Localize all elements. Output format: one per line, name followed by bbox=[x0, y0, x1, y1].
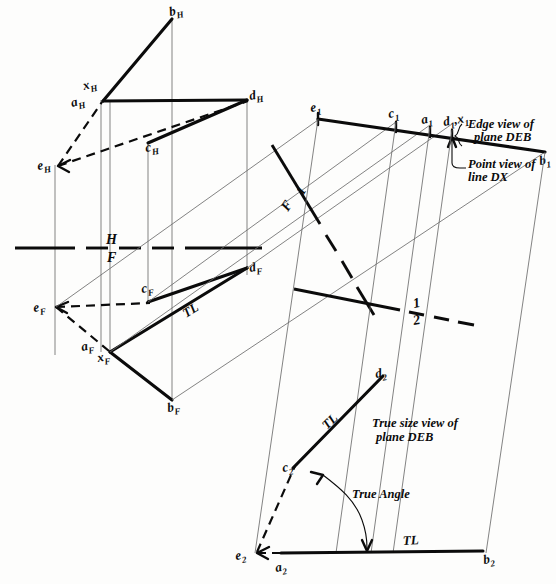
note-point-view-line2: line DX bbox=[468, 170, 509, 184]
descriptive-geometry-drawing: H F bH xH aH bbox=[0, 0, 556, 584]
drawing-sheet: H F bH xH aH bbox=[0, 0, 556, 584]
line-aF-bF bbox=[110, 352, 172, 400]
note-true-angle: True Angle bbox=[352, 487, 410, 501]
note-true-size-line1: True size view of bbox=[372, 416, 460, 430]
label-TL-front: TL bbox=[180, 299, 201, 320]
label-d1-x1: d1,x1 bbox=[442, 110, 470, 132]
note-point-view-line1: Point view of bbox=[468, 157, 537, 171]
fold-label-f: F bbox=[106, 250, 117, 265]
label-aF: aF bbox=[80, 337, 95, 357]
label-e2: e2 bbox=[234, 546, 248, 566]
fold-label-h: H bbox=[105, 232, 118, 247]
onetwo-seg-4 bbox=[458, 322, 474, 325]
label-e1: e1 bbox=[309, 98, 322, 118]
label-c2: c2 bbox=[281, 458, 295, 478]
projector-aF-a1 bbox=[110, 125, 430, 352]
label-a2: a2 bbox=[274, 558, 288, 578]
fold-label-f-upper: F bbox=[277, 197, 296, 214]
onetwo-seg-1 bbox=[294, 289, 400, 310]
projector-dF-d1 bbox=[247, 124, 452, 268]
note-true-size-line2: plane DEB bbox=[375, 430, 433, 444]
f1-seg-3 bbox=[342, 261, 352, 278]
line-a2-b2-TL bbox=[281, 551, 483, 553]
projector-eF-e1 bbox=[56, 120, 318, 307]
label-b2: b2 bbox=[482, 550, 496, 570]
f1-seg-2 bbox=[326, 235, 336, 251]
projector-e1-e2 bbox=[255, 119, 318, 553]
line-aH-bH bbox=[103, 19, 172, 101]
label-dH: dH bbox=[248, 86, 265, 106]
hidden-eF-cF bbox=[56, 303, 150, 307]
hidden-e2-c2 bbox=[257, 466, 295, 552]
label-c1: c1 bbox=[387, 104, 400, 124]
true-size-note: True size view of plane DEB bbox=[372, 416, 460, 444]
label-aH: aH bbox=[69, 92, 87, 113]
projector-b1-b2 bbox=[486, 152, 545, 553]
note-edge-view-line2: plane DEB bbox=[473, 130, 531, 144]
fold-label-1-upper: 1 bbox=[412, 295, 422, 311]
label-d2: d2 bbox=[374, 364, 388, 384]
projector-cF-c1 bbox=[148, 122, 396, 302]
fold-line-f-1 bbox=[272, 145, 374, 315]
true-angle-arrowhead-upper bbox=[311, 472, 323, 484]
label-xH: xH bbox=[80, 75, 99, 96]
fold-line-1-2 bbox=[294, 289, 474, 325]
label-eH: eH bbox=[36, 156, 53, 176]
label-bH: bH bbox=[168, 1, 186, 22]
edge-view-bracket bbox=[455, 124, 462, 146]
label-dF: dF bbox=[248, 258, 263, 278]
onetwo-seg-3 bbox=[434, 317, 449, 320]
hidden-eH-aH bbox=[58, 102, 102, 166]
label-eF: eF bbox=[32, 298, 47, 318]
note-edge-view-line1: Edge view of bbox=[467, 117, 536, 131]
line-aF-dF-TL bbox=[110, 268, 247, 352]
label-TL-c2d2: TL bbox=[319, 410, 341, 432]
line-aH-dH bbox=[103, 100, 247, 101]
label-cF: cF bbox=[140, 279, 155, 299]
label-TL-base: TL bbox=[402, 532, 419, 548]
label-bF: bF bbox=[166, 398, 181, 418]
